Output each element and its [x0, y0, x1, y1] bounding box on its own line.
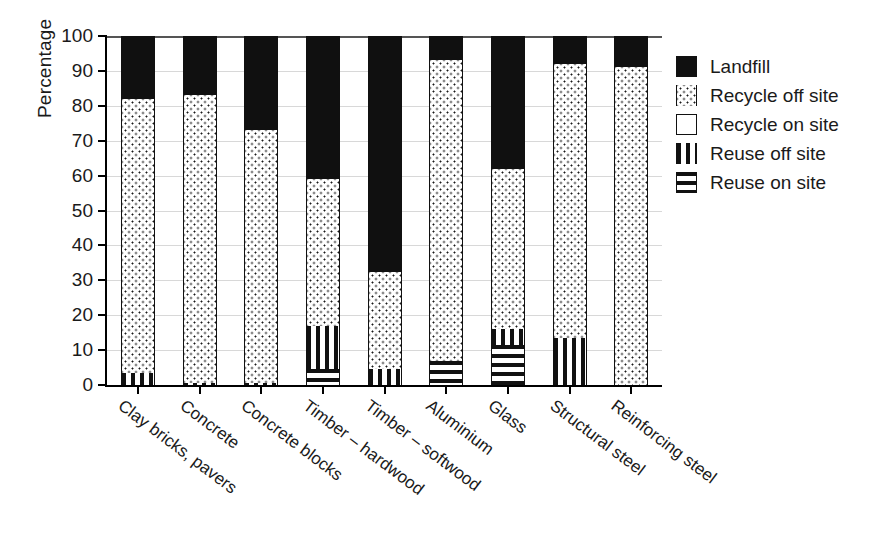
legend-swatch-solid-black-icon [676, 56, 697, 77]
legend-item[interactable]: Recycle on site [676, 110, 876, 139]
legend-item[interactable]: Recycle off site [676, 81, 876, 110]
y-axis-tick-label: 80 [72, 95, 93, 117]
y-axis-tick [98, 384, 107, 386]
bar-timber-softwood[interactable] [368, 36, 402, 385]
bar-segment-landfill [121, 36, 155, 99]
y-axis-tick-label: 50 [72, 200, 93, 222]
bar-glass[interactable] [491, 36, 525, 385]
y-axis-title: Percentage [34, 0, 56, 118]
bar-segment-recycle-off-site [244, 130, 278, 383]
chart-legend: LandfillRecycle off siteRecycle on siteR… [676, 52, 876, 197]
bar-segment-recycle-off-site [614, 67, 648, 385]
x-axis-tick [384, 385, 386, 394]
x-axis-tick [199, 385, 201, 394]
bar-segment-landfill [368, 36, 402, 272]
y-axis-tick [98, 244, 107, 246]
x-axis-tick [569, 385, 571, 394]
bar-segment-reuse-off-site [306, 326, 340, 370]
y-axis-tick [98, 175, 107, 177]
y-axis-tick [98, 314, 107, 316]
x-axis-tick [630, 385, 632, 394]
bar-segment-reuse-off-site [553, 338, 587, 385]
stacked-bar-chart: Percentage 0102030405060708090100 Landfi… [0, 0, 883, 554]
bar-segment-recycle-off-site [121, 99, 155, 373]
y-axis-tick-label: 70 [72, 130, 93, 152]
x-axis-tick [507, 385, 509, 394]
legend-label: Reuse off site [710, 143, 826, 165]
bar-segment-reuse-on-site [491, 345, 525, 385]
legend-label: Recycle on site [710, 114, 839, 136]
bar-segment-reuse-off-site [368, 369, 402, 385]
bar-clay-bricks-pavers[interactable] [121, 36, 155, 385]
bar-segment-reuse-off-site [491, 329, 525, 345]
y-axis-tick-label: 100 [61, 25, 93, 47]
bar-concrete-blocks[interactable] [244, 36, 278, 385]
bar-aluminium[interactable] [429, 36, 463, 385]
x-axis-tick [322, 385, 324, 394]
x-axis-tick [137, 385, 139, 394]
bar-segment-reuse-off-site [183, 383, 217, 385]
plot-area: 0102030405060708090100 [105, 36, 662, 387]
y-axis-tick [98, 35, 107, 37]
legend-item[interactable]: Landfill [676, 52, 876, 81]
y-axis-tick [98, 279, 107, 281]
y-axis-tick-label: 90 [72, 60, 93, 82]
y-axis-tick [98, 105, 107, 107]
bar-segment-reuse-on-site [429, 361, 463, 385]
bar-segment-recycle-off-site [429, 60, 463, 360]
legend-swatch-vertical-stripes-icon [676, 143, 697, 164]
bar-segment-reuse-off-site [121, 373, 155, 385]
y-axis-tick [98, 70, 107, 72]
y-axis-tick-label: 60 [72, 165, 93, 187]
legend-swatch-dots-icon [676, 85, 697, 106]
bar-segment-landfill [491, 36, 525, 169]
x-axis-tick [445, 385, 447, 394]
bar-structural-steel[interactable] [553, 36, 587, 385]
legend-label: Recycle off site [710, 85, 838, 107]
legend-swatch-white-icon [676, 114, 697, 135]
y-axis-tick-label: 40 [72, 234, 93, 256]
bar-reinforcing-steel[interactable] [614, 36, 648, 385]
y-axis-tick-label: 0 [82, 374, 93, 396]
y-axis-tick [98, 349, 107, 351]
bar-segment-landfill [183, 36, 217, 95]
bar-segment-recycle-off-site [553, 64, 587, 338]
x-axis-category-label: Reinforcing steel [607, 396, 720, 488]
bar-segment-landfill [614, 36, 648, 67]
bar-segment-landfill [553, 36, 587, 64]
bar-segment-recycle-off-site [183, 95, 217, 383]
x-axis-category-label: Glass [484, 396, 531, 438]
bar-segment-recycle-off-site [368, 272, 402, 370]
bar-segment-landfill [306, 36, 340, 179]
legend-item[interactable]: Reuse on site [676, 168, 876, 197]
legend-label: Landfill [710, 56, 770, 78]
y-axis-tick-label: 20 [72, 304, 93, 326]
bar-segment-reuse-on-site [306, 369, 340, 385]
bar-concrete[interactable] [183, 36, 217, 385]
y-axis-tick [98, 140, 107, 142]
bar-segment-landfill [244, 36, 278, 130]
y-axis-tick [98, 210, 107, 212]
bar-segment-landfill [429, 36, 463, 60]
legend-item[interactable]: Reuse off site [676, 139, 876, 168]
bar-segment-recycle-off-site [491, 169, 525, 330]
bar-segment-reuse-off-site [244, 383, 278, 385]
bar-timber-hardwood[interactable] [306, 36, 340, 385]
y-axis-tick-label: 30 [72, 269, 93, 291]
y-axis-tick-label: 10 [72, 339, 93, 361]
bar-segment-recycle-off-site [306, 179, 340, 326]
x-axis-tick [260, 385, 262, 394]
legend-label: Reuse on site [710, 172, 826, 194]
legend-swatch-horizontal-stripes-icon [676, 172, 697, 193]
